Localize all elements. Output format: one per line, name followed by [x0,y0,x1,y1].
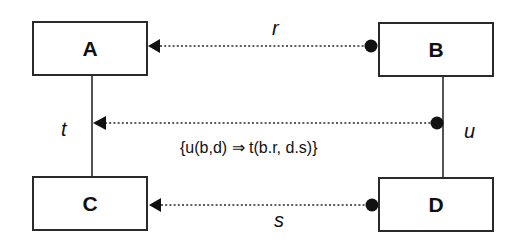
source-dot-s-icon [366,199,379,212]
source-dot-r-icon [365,40,378,53]
box-b-label: B [428,38,443,62]
relation-u-label: u [464,121,475,141]
box-d: D [378,177,494,232]
box-b: B [378,22,494,77]
arrowhead-constraint-icon [93,116,106,130]
box-a-label: A [82,37,97,61]
relation-t-label: t [61,119,67,139]
relation-s-label: s [274,210,284,230]
box-c-label: C [82,192,97,216]
relation-r-label: r [272,18,279,38]
constraint-label: {u(b,d) ⇒ t(b.r, d.s)} [180,140,318,156]
box-a: A [32,21,148,76]
box-d-label: D [428,193,443,217]
arrowhead-s-icon [149,198,161,212]
arrowhead-r-icon [148,39,160,53]
box-c: C [32,176,148,231]
source-dot-constraint-icon [431,117,444,130]
